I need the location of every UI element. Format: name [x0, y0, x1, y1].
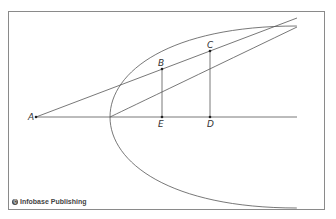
point-C-dot — [209, 50, 212, 53]
label-A: A — [27, 112, 34, 122]
label-E: E — [158, 119, 164, 129]
point-D-dot — [209, 116, 212, 119]
parabola-diagram: A B C D E — [0, 0, 336, 219]
copyright-credit: ©Infobase Publishing — [12, 198, 87, 205]
credit-text: Infobase Publishing — [20, 198, 87, 205]
label-B: B — [158, 58, 164, 68]
label-C: C — [207, 40, 214, 50]
copyright-icon: © — [12, 199, 18, 205]
label-D: D — [207, 119, 214, 129]
point-B-dot — [161, 68, 164, 71]
point-E-dot — [161, 116, 164, 119]
point-A-dot — [35, 116, 38, 119]
tangent-line — [36, 18, 297, 117]
